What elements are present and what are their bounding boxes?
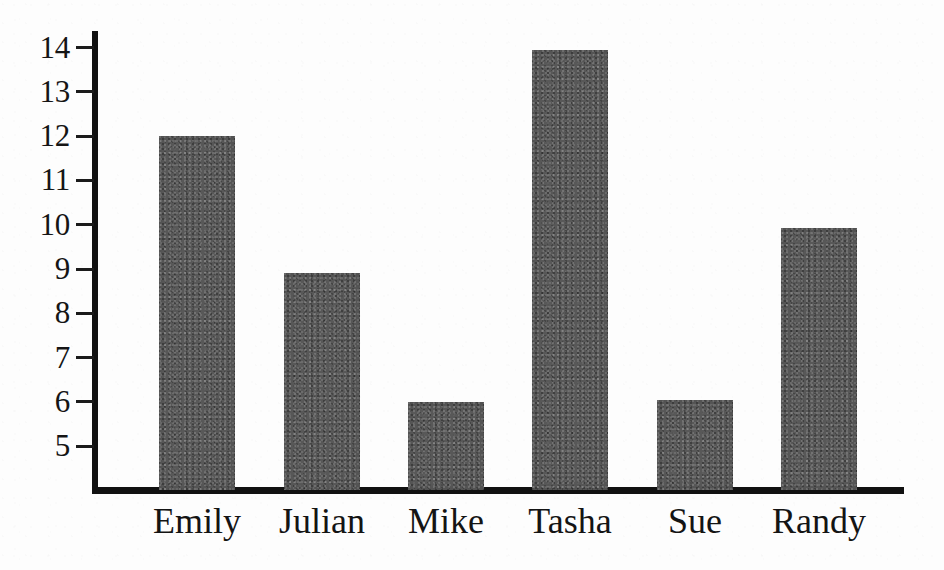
y-axis-tick-label: 10 <box>26 209 70 240</box>
bar-julian <box>284 273 360 490</box>
bar-mike <box>408 402 484 491</box>
bar-chart-figure: 567891011121314 EmilyJulianMikeTashaSueR… <box>0 0 944 570</box>
y-axis-tick-mark <box>76 400 94 403</box>
y-axis-tick-label: 14 <box>26 32 70 63</box>
y-axis-tick-mark <box>76 356 94 359</box>
y-axis-tick-mark <box>76 135 94 138</box>
y-axis-tick-mark <box>76 312 94 315</box>
y-axis-tick-label: 5 <box>26 430 70 461</box>
y-axis-tick-label: 6 <box>26 386 70 417</box>
y-axis-tick-mark <box>76 179 94 182</box>
bar-emily <box>159 136 235 490</box>
y-axis-tick-label: 7 <box>26 342 70 373</box>
x-axis-category-label: Randy <box>729 499 909 543</box>
y-axis-tick-mark <box>76 268 94 271</box>
y-axis-tick-label: 8 <box>26 297 70 328</box>
y-axis-tick-label: 9 <box>26 253 70 284</box>
plot-area: 567891011121314 EmilyJulianMikeTashaSueR… <box>0 0 944 570</box>
bar-randy <box>781 228 857 491</box>
y-axis-tick-label: 13 <box>26 76 70 107</box>
y-axis-tick-mark <box>76 445 94 448</box>
y-axis-tick-mark <box>76 223 94 226</box>
bar-sue <box>657 400 733 491</box>
y-axis-tick-mark <box>76 90 94 93</box>
y-axis-tick-label: 11 <box>26 164 70 195</box>
bar-tasha <box>532 50 608 491</box>
y-axis-tick-label: 12 <box>26 120 70 151</box>
y-axis-tick-mark <box>76 46 94 49</box>
y-axis-line <box>92 31 98 492</box>
